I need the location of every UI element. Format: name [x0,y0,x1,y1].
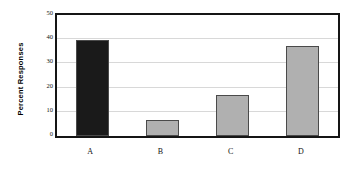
y-tick-label: 10 [37,107,53,114]
gridline [57,38,338,39]
plot-area [55,13,340,138]
y-tick-label: 40 [37,34,53,41]
bar-a [76,40,109,136]
bar-chart-figure: Percent Responses 01020304050 ABCD [0,0,358,171]
x-tick-label: B [140,147,180,157]
x-tick-label: A [70,147,110,157]
bar-d [286,46,319,136]
y-tick-label: 0 [37,131,53,138]
x-tick-label: D [281,147,321,157]
y-tick-label: 20 [37,83,53,90]
y-tick-label: 30 [37,58,53,65]
bar-b [146,120,179,136]
y-tick-label: 50 [37,10,53,17]
y-axis-title: Percent Responses [14,28,28,130]
bar-c [216,95,249,136]
x-tick-label: C [211,147,251,157]
